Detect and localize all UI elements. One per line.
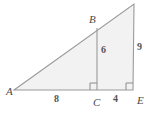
measure-label-segment-ac: 8 bbox=[54, 94, 59, 104]
vertex-label-b: B bbox=[89, 14, 96, 25]
measure-label-segment-de: 9 bbox=[137, 42, 142, 52]
geometry-figure: A B C E 8 4 6 9 bbox=[0, 0, 152, 114]
geometry-canvas bbox=[0, 0, 152, 114]
measure-label-segment-bc: 6 bbox=[101, 45, 106, 55]
measure-label-segment-ce: 4 bbox=[113, 94, 118, 104]
vertex-label-e: E bbox=[137, 95, 144, 106]
outer-triangle-shape bbox=[14, 4, 134, 90]
vertex-label-c: C bbox=[93, 97, 100, 108]
vertex-label-a: A bbox=[6, 86, 13, 97]
